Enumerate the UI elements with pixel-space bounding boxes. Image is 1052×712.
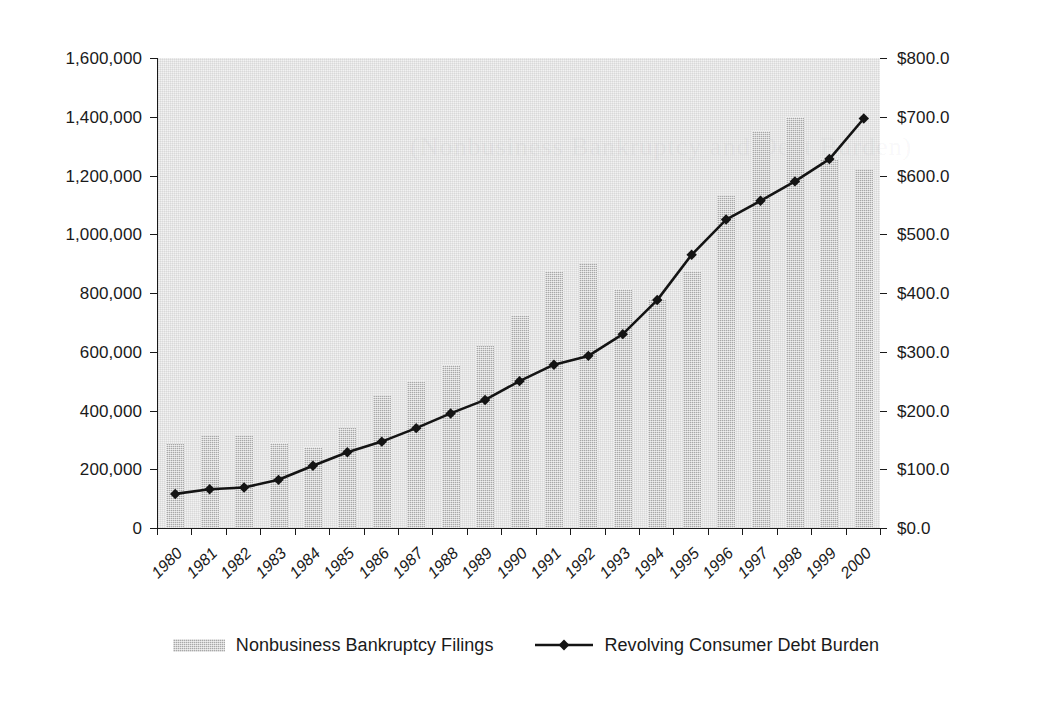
x-tick-15 bbox=[673, 528, 674, 535]
left-tick-label-1400000: 1,400,000 bbox=[34, 109, 142, 126]
legend-entry-filings: Nonbusiness Bankruptcy Filings bbox=[173, 636, 494, 654]
left-tick-800000 bbox=[150, 293, 157, 294]
x-tick-label-1986: 1986 bbox=[348, 545, 392, 589]
marker-1985 bbox=[342, 447, 352, 457]
x-tick-label-1996: 1996 bbox=[693, 545, 737, 589]
x-tick-11 bbox=[536, 528, 537, 535]
right-tick-400 bbox=[880, 293, 887, 294]
x-tick-21 bbox=[880, 528, 881, 535]
x-tick-label-1982: 1982 bbox=[211, 545, 255, 589]
x-tick-label-1983: 1983 bbox=[245, 545, 289, 589]
marker-1984 bbox=[308, 461, 318, 471]
x-tick-label-1988: 1988 bbox=[417, 545, 461, 589]
x-tick-label-1991: 1991 bbox=[520, 545, 564, 589]
left-tick-label-600000: 600,000 bbox=[34, 344, 142, 361]
left-tick-0 bbox=[150, 528, 157, 529]
right-tick-0 bbox=[880, 528, 887, 529]
x-tick-label-1993: 1993 bbox=[589, 545, 633, 589]
right-tick-label-600: $600.0 bbox=[897, 168, 950, 185]
x-tick-label-1985: 1985 bbox=[314, 545, 358, 589]
right-tick-500 bbox=[880, 234, 887, 235]
left-tick-label-1600000: 1,600,000 bbox=[34, 50, 142, 67]
right-tick-label-700: $700.0 bbox=[897, 109, 950, 126]
revolving-debt-line bbox=[175, 119, 864, 494]
left-tick-label-1000000: 1,000,000 bbox=[34, 226, 142, 243]
left-tick-400000 bbox=[150, 411, 157, 412]
marker-1989 bbox=[480, 395, 490, 405]
left-tick-1000000 bbox=[150, 234, 157, 235]
x-tick-17 bbox=[742, 528, 743, 535]
marker-1988 bbox=[445, 408, 455, 418]
x-tick-label-1997: 1997 bbox=[727, 545, 771, 589]
x-tick-label-1999: 1999 bbox=[796, 545, 840, 589]
x-tick-13 bbox=[605, 528, 606, 535]
right-tick-label-0: $0.0 bbox=[897, 520, 931, 537]
x-tick-20 bbox=[846, 528, 847, 535]
right-tick-label-400: $400.0 bbox=[897, 285, 950, 302]
marker-1987 bbox=[411, 423, 421, 433]
marker-1990 bbox=[514, 376, 524, 386]
x-tick-label-1989: 1989 bbox=[452, 545, 496, 589]
marker-1981 bbox=[204, 484, 214, 494]
x-tick-16 bbox=[708, 528, 709, 535]
left-tick-label-400000: 400,000 bbox=[34, 403, 142, 420]
x-tick-label-1981: 1981 bbox=[176, 545, 220, 589]
x-tick-label-1984: 1984 bbox=[279, 545, 323, 589]
left-tick-label-1200000: 1,200,000 bbox=[34, 168, 142, 185]
x-tick-2 bbox=[226, 528, 227, 535]
marker-1986 bbox=[377, 436, 387, 446]
right-tick-label-100: $100.0 bbox=[897, 461, 950, 478]
legend-label-debt: Revolving Consumer Debt Burden bbox=[604, 636, 879, 654]
x-tick-1 bbox=[191, 528, 192, 535]
left-tick-label-200000: 200,000 bbox=[34, 461, 142, 478]
left-tick-1200000 bbox=[150, 176, 157, 177]
left-tick-label-800000: 800,000 bbox=[34, 285, 142, 302]
x-tick-7 bbox=[398, 528, 399, 535]
x-tick-6 bbox=[364, 528, 365, 535]
x-tick-5 bbox=[329, 528, 330, 535]
marker-1983 bbox=[273, 475, 283, 485]
x-axis-baseline bbox=[157, 528, 880, 529]
marker-1982 bbox=[239, 482, 249, 492]
right-tick-600 bbox=[880, 176, 887, 177]
x-tick-label-1995: 1995 bbox=[658, 545, 702, 589]
legend-label-filings: Nonbusiness Bankruptcy Filings bbox=[236, 636, 494, 654]
left-tick-1600000 bbox=[150, 58, 157, 59]
left-tick-600000 bbox=[150, 352, 157, 353]
left-tick-label-0: 0 bbox=[34, 520, 142, 537]
right-tick-200 bbox=[880, 411, 887, 412]
x-tick-14 bbox=[639, 528, 640, 535]
x-tick-label-1992: 1992 bbox=[555, 545, 599, 589]
chart-figure: (Nonbusiness Bankruptcy and Debt Burden)… bbox=[0, 0, 1052, 712]
marker-1997 bbox=[755, 196, 765, 206]
x-tick-label-1998: 1998 bbox=[761, 545, 805, 589]
bar-swatch-icon bbox=[173, 639, 225, 652]
chart-legend: Nonbusiness Bankruptcy Filings Revolving… bbox=[0, 636, 1052, 654]
x-tick-label-1987: 1987 bbox=[383, 545, 427, 589]
x-tick-0 bbox=[157, 528, 158, 535]
line-series-layer bbox=[158, 58, 881, 528]
left-tick-1400000 bbox=[150, 117, 157, 118]
right-tick-label-200: $200.0 bbox=[897, 403, 950, 420]
legend-entry-debt: Revolving Consumer Debt Burden bbox=[535, 636, 879, 654]
revolving-debt-markers bbox=[170, 113, 869, 499]
x-tick-9 bbox=[467, 528, 468, 535]
right-tick-300 bbox=[880, 352, 887, 353]
left-tick-200000 bbox=[150, 469, 157, 470]
right-tick-label-500: $500.0 bbox=[897, 226, 950, 243]
line-diamond-swatch-icon bbox=[535, 638, 593, 652]
right-tick-700 bbox=[880, 117, 887, 118]
x-tick-label-1990: 1990 bbox=[486, 545, 530, 589]
x-tick-label-1980: 1980 bbox=[142, 545, 186, 589]
x-tick-10 bbox=[501, 528, 502, 535]
x-tick-19 bbox=[811, 528, 812, 535]
marker-1991 bbox=[549, 359, 559, 369]
right-tick-label-800: $800.0 bbox=[897, 50, 950, 67]
x-tick-18 bbox=[777, 528, 778, 535]
x-tick-8 bbox=[432, 528, 433, 535]
x-tick-3 bbox=[260, 528, 261, 535]
plot-area: (Nonbusiness Bankruptcy and Debt Burden) bbox=[157, 58, 880, 528]
right-tick-800 bbox=[880, 58, 887, 59]
x-tick-label-2000: 2000 bbox=[830, 545, 874, 589]
marker-1980 bbox=[170, 489, 180, 499]
